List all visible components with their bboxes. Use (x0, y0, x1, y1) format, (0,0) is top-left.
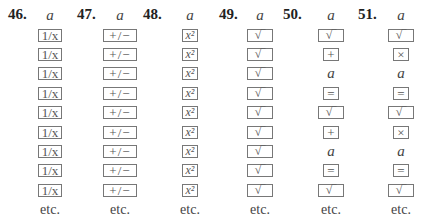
square-root-key-icon: √‾ (388, 106, 414, 119)
problem-number: 46. (8, 6, 27, 23)
square-key-icon: x² (182, 184, 198, 197)
etc-label: etc. (250, 202, 270, 218)
square-root-key-icon: √‾ (247, 48, 273, 61)
reciprocal-key-icon: 1/x (38, 126, 62, 139)
etc-label: etc. (321, 202, 341, 218)
square-root-key-icon: √‾ (318, 184, 344, 197)
reciprocal-key-icon: 1/x (38, 48, 62, 61)
variable-a: a (256, 8, 264, 23)
etc-label: etc. (40, 202, 60, 218)
square-root-key-icon: √‾ (247, 184, 273, 197)
change-sign-key-icon: +/− (103, 48, 137, 61)
change-sign-key-icon: +/− (103, 126, 137, 139)
etc-label: etc. (110, 202, 130, 218)
reciprocal-key-icon: 1/x (38, 87, 62, 100)
key-sequence: a x² x² x² x² x² x² x² x² x² etc. (170, 6, 210, 218)
variable-a: a (46, 8, 54, 23)
square-root-key-icon: √‾ (247, 164, 273, 177)
key-sequence: a √‾ √‾ √‾ √‾ √‾ √‾ √‾ √‾ √‾ etc. (240, 6, 280, 218)
problem-number: 49. (219, 6, 238, 23)
change-sign-key-icon: +/− (103, 87, 137, 100)
square-key-icon: x² (182, 29, 198, 42)
square-key-icon: x² (182, 48, 198, 61)
square-key-icon: x² (182, 87, 198, 100)
square-key-icon: x² (182, 67, 198, 80)
problem-number: 48. (143, 6, 162, 23)
key-sequence: a +/− +/− +/− +/− +/− +/− +/− +/− +/− et… (100, 6, 140, 218)
plus-key-icon: + (323, 126, 339, 139)
key-sequence: a 1/x 1/x 1/x 1/x 1/x 1/x 1/x 1/x 1/x et… (30, 6, 70, 218)
variable-a: a (327, 66, 335, 81)
square-root-key-icon: √‾ (247, 87, 273, 100)
reciprocal-key-icon: 1/x (38, 145, 62, 158)
square-key-icon: x² (182, 145, 198, 158)
multiply-key-icon: × (393, 48, 409, 61)
square-root-key-icon: √‾ (388, 184, 414, 197)
variable-a: a (397, 8, 405, 23)
square-root-key-icon: √‾ (388, 29, 414, 42)
etc-label: etc. (180, 202, 200, 218)
reciprocal-key-icon: 1/x (38, 184, 62, 197)
square-root-key-icon: √‾ (247, 29, 273, 42)
change-sign-key-icon: +/− (103, 184, 137, 197)
square-root-key-icon: √‾ (247, 145, 273, 158)
square-key-icon: x² (182, 164, 198, 177)
problem-number: 50. (283, 6, 302, 23)
variable-a: a (327, 8, 335, 23)
square-root-key-icon: √‾ (247, 126, 273, 139)
variable-a: a (186, 8, 194, 23)
etc-label: etc. (391, 202, 411, 218)
change-sign-key-icon: +/− (103, 145, 137, 158)
change-sign-key-icon: +/− (103, 106, 137, 119)
key-sequence: a √‾ + a = √‾ + a = √‾ etc. (311, 6, 351, 218)
change-sign-key-icon: +/− (103, 67, 137, 80)
square-root-key-icon: √‾ (247, 67, 273, 80)
variable-a: a (327, 144, 335, 159)
square-root-key-icon: √‾ (318, 106, 344, 119)
problem-number: 51. (358, 6, 377, 23)
change-sign-key-icon: +/− (103, 29, 137, 42)
square-key-icon: x² (182, 126, 198, 139)
square-key-icon: x² (182, 106, 198, 119)
variable-a: a (116, 8, 124, 23)
square-root-key-icon: √‾ (318, 29, 344, 42)
equals-key-icon: = (323, 164, 339, 177)
multiply-key-icon: × (393, 126, 409, 139)
equals-key-icon: = (323, 87, 339, 100)
problem-number: 47. (77, 6, 96, 23)
change-sign-key-icon: +/− (103, 164, 137, 177)
reciprocal-key-icon: 1/x (38, 164, 62, 177)
plus-key-icon: + (323, 48, 339, 61)
variable-a: a (397, 66, 405, 81)
reciprocal-key-icon: 1/x (38, 29, 62, 42)
square-root-key-icon: √‾ (247, 106, 273, 119)
key-sequence: a √‾ × a = √‾ × a = √‾ etc. (381, 6, 421, 218)
equals-key-icon: = (393, 87, 409, 100)
variable-a: a (397, 144, 405, 159)
reciprocal-key-icon: 1/x (38, 106, 62, 119)
equals-key-icon: = (393, 164, 409, 177)
reciprocal-key-icon: 1/x (38, 67, 62, 80)
